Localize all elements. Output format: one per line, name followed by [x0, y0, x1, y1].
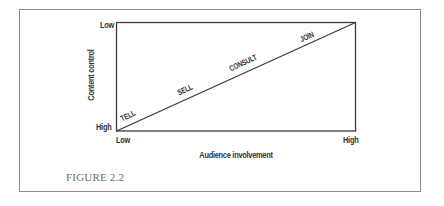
- diagonal-line: [117, 23, 356, 132]
- y-axis-low-label: Low: [100, 20, 114, 30]
- x-axis-title: Audience involvement: [199, 150, 272, 160]
- x-axis-low-label: Low: [116, 135, 130, 145]
- figure-caption: FIGURE 2.2: [66, 171, 124, 183]
- y-axis-high-label: High: [96, 122, 111, 132]
- y-axis-title: Content control: [86, 49, 96, 100]
- x-axis-high-label: High: [343, 135, 358, 145]
